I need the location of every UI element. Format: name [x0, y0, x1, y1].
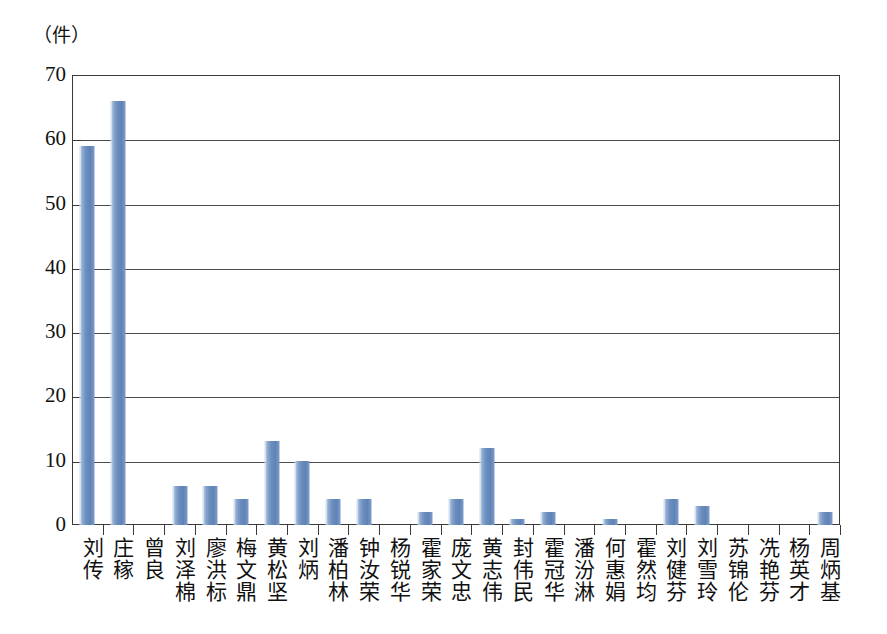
bar-slot	[410, 75, 441, 525]
x-category-label: 刘传	[72, 537, 103, 581]
bar	[326, 499, 341, 525]
x-tick-mark	[594, 525, 595, 535]
x-tick-mark	[656, 525, 657, 535]
x-tick-mark	[287, 525, 288, 535]
bar	[510, 519, 525, 525]
bar	[694, 506, 709, 525]
x-category-label-text: 潘柏林	[325, 537, 348, 603]
x-tick-mark	[840, 525, 841, 535]
x-category-label: 霍然均	[625, 537, 656, 603]
x-category-label-text: 周炳基	[817, 537, 840, 603]
bar-slot	[748, 75, 779, 525]
x-category-label: 黄松坚	[256, 537, 287, 603]
x-category-label-text: 何惠娟	[602, 537, 625, 603]
x-tick-mark	[471, 525, 472, 535]
bars-layer	[72, 75, 840, 525]
x-category-label-text: 霍然均	[633, 537, 656, 603]
bar-slot	[72, 75, 103, 525]
x-category-label: 霍家荣	[410, 537, 441, 603]
y-tick-label: 20	[18, 385, 66, 406]
x-category-label-text: 霍家荣	[418, 537, 441, 603]
x-tick-mark	[686, 525, 687, 535]
x-category-label: 刘炳	[287, 537, 318, 581]
bar	[479, 448, 494, 525]
x-category-label: 霍冠华	[533, 537, 564, 603]
x-category-label: 曾良	[133, 537, 164, 581]
x-category-label-text: 杨英才	[786, 537, 809, 603]
x-category-label: 潘汾淋	[564, 537, 595, 603]
x-category-label: 何惠娟	[594, 537, 625, 603]
bar-slot	[656, 75, 687, 525]
bar	[203, 486, 218, 525]
bar	[602, 519, 617, 525]
x-tick-mark	[533, 525, 534, 535]
bar-slot	[379, 75, 410, 525]
x-category-label-text: 黄松坚	[264, 537, 287, 603]
bar-slot	[686, 75, 717, 525]
x-category-label-text: 黄志伟	[479, 537, 502, 603]
bar-slot	[103, 75, 134, 525]
y-tick-label: 70	[18, 64, 66, 85]
bar-slot	[133, 75, 164, 525]
x-category-label: 苏锦伦	[717, 537, 748, 603]
bar-slot	[318, 75, 349, 525]
y-tick-label: 0	[18, 514, 66, 535]
bar	[664, 499, 679, 525]
x-tick-mark	[103, 525, 104, 535]
bar-slot	[779, 75, 810, 525]
x-category-label-text: 刘雪玲	[694, 537, 717, 603]
bar-slot	[502, 75, 533, 525]
bar-slot	[564, 75, 595, 525]
x-category-label-text: 廖洪标	[203, 537, 226, 603]
x-category-label-text: 潘汾淋	[571, 537, 594, 603]
x-tick-mark	[318, 525, 319, 535]
x-category-label: 冼艳芬	[748, 537, 779, 603]
x-category-label: 庞文忠	[441, 537, 472, 603]
x-tick-mark	[809, 525, 810, 535]
x-category-label: 刘泽棉	[164, 537, 195, 603]
bar	[233, 499, 248, 525]
x-tick-mark	[195, 525, 196, 535]
x-tick-mark	[348, 525, 349, 535]
x-tick-mark	[748, 525, 749, 535]
x-tick-mark	[164, 525, 165, 535]
x-category-label: 潘柏林	[318, 537, 349, 603]
x-tick-mark	[779, 525, 780, 535]
bar-slot	[195, 75, 226, 525]
bar	[448, 499, 463, 525]
x-category-label: 刘雪玲	[686, 537, 717, 603]
x-category-label: 庄稼	[103, 537, 134, 581]
x-tick-mark	[564, 525, 565, 535]
bar-slot	[287, 75, 318, 525]
bar-slot	[594, 75, 625, 525]
x-tick-mark	[625, 525, 626, 535]
x-category-label-text: 杨锐华	[387, 537, 410, 603]
y-tick-label: 40	[18, 257, 66, 278]
y-tick-label: 60	[18, 128, 66, 149]
x-category-label: 廖洪标	[195, 537, 226, 603]
bar-slot	[625, 75, 656, 525]
x-category-label: 封伟民	[502, 537, 533, 603]
x-tick-mark	[717, 525, 718, 535]
x-category-label: 杨英才	[779, 537, 810, 603]
x-category-label-text: 梅文鼎	[233, 537, 256, 603]
x-tick-mark	[256, 525, 257, 535]
x-tick-mark	[502, 525, 503, 535]
x-category-label-text: 刘炳	[295, 537, 318, 581]
x-category-label-text: 霍冠华	[541, 537, 564, 603]
x-category-label-text: 庄稼	[110, 537, 133, 581]
bar-slot	[256, 75, 287, 525]
x-category-label-text: 庞文忠	[448, 537, 471, 603]
x-category-label-text: 钟汝荣	[356, 537, 379, 603]
x-category-label-text: 刘传	[80, 537, 103, 581]
bar	[541, 512, 556, 525]
x-category-label-text: 封伟民	[510, 537, 533, 603]
bar	[418, 512, 433, 525]
x-category-label-text: 刘健芬	[663, 537, 686, 603]
bar-slot	[717, 75, 748, 525]
bar-chart-figure: （件） 010203040506070 刘传庄稼曾良刘泽棉廖洪标梅文鼎黄松坚刘炳…	[0, 0, 887, 634]
x-tick-mark	[441, 525, 442, 535]
bar-slot	[471, 75, 502, 525]
x-category-label-text: 苏锦伦	[725, 537, 748, 603]
y-tick-label: 50	[18, 193, 66, 214]
